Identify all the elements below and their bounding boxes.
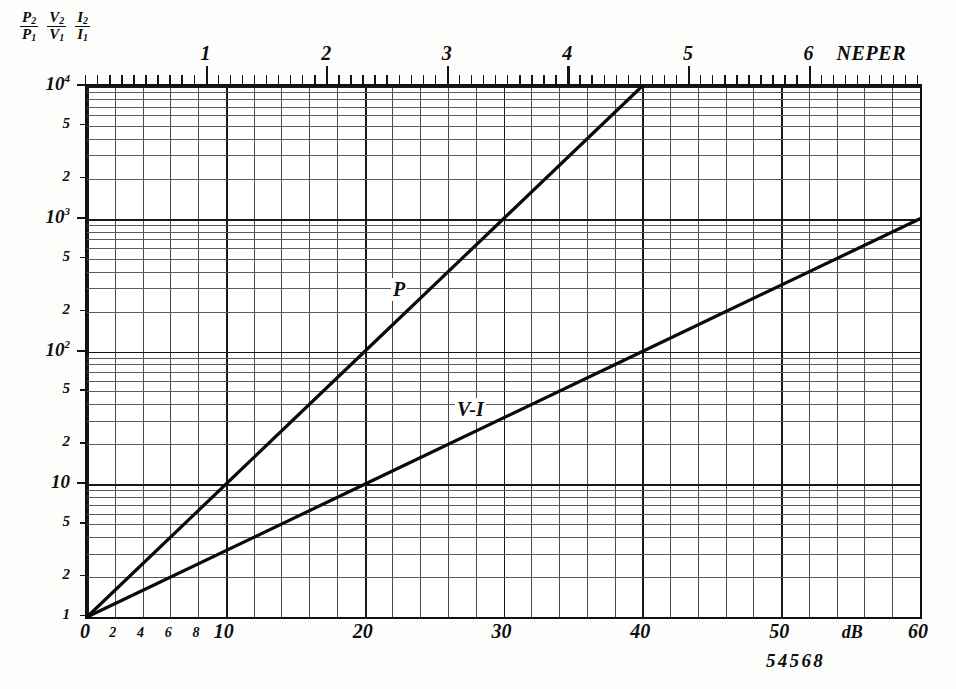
top-axis-tick-minor bbox=[145, 75, 146, 84]
y-axis-tick-label: 103 bbox=[46, 205, 71, 227]
top-axis-tick-minor bbox=[459, 75, 460, 84]
y-axis-tick-label: 2 bbox=[63, 433, 71, 450]
curve-label-vi: V-I bbox=[455, 398, 486, 421]
curve-label-p: P bbox=[391, 278, 407, 301]
top-axis-tick-major bbox=[567, 66, 569, 84]
top-axis-tick-minor bbox=[181, 75, 182, 84]
figure-number: 54568 bbox=[766, 650, 825, 672]
top-axis-tick-major bbox=[206, 66, 208, 84]
top-axis-tick-major bbox=[688, 66, 690, 84]
top-axis-tick-minor bbox=[266, 75, 267, 84]
top-axis-tick-minor bbox=[543, 75, 544, 84]
y-axis-tick-label: 2 bbox=[63, 566, 71, 583]
top-axis-tick-minor bbox=[676, 75, 677, 84]
y-axis-tick bbox=[77, 217, 85, 219]
y-axis-tick-label: 2 bbox=[63, 168, 71, 185]
top-axis-labels: 123456 bbox=[85, 42, 918, 72]
y-axis-tick bbox=[80, 615, 85, 616]
top-axis-tick-minor bbox=[399, 75, 400, 84]
y-axis-tick bbox=[80, 575, 85, 576]
top-axis-tick-minor bbox=[784, 75, 785, 84]
y-axis-tick bbox=[80, 522, 85, 523]
top-axis-tick-minor bbox=[760, 75, 761, 84]
y-axis-tick-label: 1 bbox=[63, 606, 71, 623]
y-axis-tick bbox=[80, 257, 85, 258]
x-axis-tick-label-minor: 2 bbox=[109, 625, 116, 641]
x-axis-unit-label: dB bbox=[842, 622, 863, 643]
top-axis-tick-minor bbox=[917, 75, 918, 84]
top-axis-tick-minor bbox=[869, 75, 870, 84]
top-axis-tick-minor bbox=[796, 75, 797, 84]
power-denominator: P1 bbox=[20, 26, 38, 42]
x-axis-labels: 01020304050602468 bbox=[85, 620, 918, 654]
y-axis-tick bbox=[80, 124, 85, 125]
voltage-denominator: V1 bbox=[47, 26, 66, 42]
top-axis-tick-minor bbox=[507, 75, 508, 84]
top-axis-tick-minor bbox=[314, 75, 315, 84]
current-numerator: I2 bbox=[75, 10, 90, 25]
y-axis-tick-label: 5 bbox=[63, 115, 71, 132]
top-axis-tick-minor bbox=[579, 75, 580, 84]
top-axis-tick-minor bbox=[435, 75, 436, 84]
y-axis-tick bbox=[77, 482, 85, 484]
x-axis-tick-label: 60 bbox=[908, 620, 928, 643]
top-axis-tick-major bbox=[326, 66, 328, 84]
top-axis-tick-minor bbox=[700, 75, 701, 84]
top-axis-tick-label: 2 bbox=[321, 42, 331, 65]
top-axis-tick-minor bbox=[664, 75, 665, 84]
top-axis-tick-minor bbox=[97, 75, 98, 84]
top-axis-tick-minor bbox=[483, 75, 484, 84]
top-axis-tick-minor bbox=[157, 75, 158, 84]
x-axis-tick-label-minor: 6 bbox=[165, 625, 172, 641]
x-axis-tick-label: 20 bbox=[353, 620, 373, 643]
top-axis-tick-minor bbox=[362, 75, 363, 84]
top-axis-tick-minor bbox=[350, 75, 351, 84]
x-axis-tick-label: 30 bbox=[492, 620, 512, 643]
top-axis-tick-minor bbox=[628, 75, 629, 84]
ratio-fraction-voltage: V2 V1 bbox=[47, 10, 66, 43]
top-axis-tick-minor bbox=[652, 75, 653, 84]
top-axis-tick-label: 5 bbox=[683, 42, 693, 65]
top-axis-tick-minor bbox=[386, 75, 387, 84]
y-axis-tick bbox=[80, 442, 85, 443]
top-axis-tick-minor bbox=[905, 75, 906, 84]
x-axis-tick-label-minor: 4 bbox=[137, 625, 144, 641]
y-axis-tick-label: 2 bbox=[63, 301, 71, 318]
x-axis-tick-label: 50 bbox=[769, 620, 789, 643]
top-axis-tick-minor bbox=[640, 75, 641, 84]
ratio-fraction-power: P2 P1 bbox=[20, 10, 38, 43]
top-axis-tick-label: 4 bbox=[562, 42, 572, 65]
top-axis-tick-minor bbox=[531, 75, 532, 84]
y-axis-tick bbox=[80, 389, 85, 390]
top-axis-tick-minor bbox=[772, 75, 773, 84]
top-axis-tick-minor bbox=[736, 75, 737, 84]
top-axis-tick-major bbox=[447, 66, 449, 84]
top-axis-tick-minor bbox=[290, 75, 291, 84]
y-axis-tick-label: 102 bbox=[46, 338, 71, 360]
top-axis-tick-label: 1 bbox=[201, 42, 211, 65]
y-axis-tick bbox=[80, 177, 85, 178]
top-axis-tick-minor bbox=[616, 75, 617, 84]
top-axis-tick-minor bbox=[423, 75, 424, 84]
top-axis-tick-minor bbox=[194, 75, 195, 84]
y-axis-tick-label: 5 bbox=[63, 513, 71, 530]
top-axis-tick-minor bbox=[218, 75, 219, 84]
y-axis-tick bbox=[80, 310, 85, 311]
top-axis-tick-minor bbox=[519, 75, 520, 84]
y-axis-tick-label: 10 bbox=[51, 471, 70, 493]
y-axis-tick bbox=[77, 350, 85, 352]
top-axis-tick-minor bbox=[230, 75, 231, 84]
top-axis-unit-label: NEPER bbox=[837, 42, 907, 65]
top-axis-tick-label: 6 bbox=[804, 42, 814, 65]
y-axis-ratio-header: P2 P1 V2 V1 I2 I1 bbox=[20, 10, 90, 43]
ratio-fraction-current: I2 I1 bbox=[75, 10, 90, 43]
top-axis-tick-minor bbox=[857, 75, 858, 84]
top-axis-tick-minor bbox=[833, 75, 834, 84]
top-axis-tick-minor bbox=[374, 75, 375, 84]
x-axis-tick-label: 0 bbox=[80, 620, 90, 643]
top-axis-tick-minor bbox=[133, 75, 134, 84]
y-axis-labels: 12510251022510325104 bbox=[0, 84, 78, 615]
curve-v-i bbox=[87, 219, 920, 617]
top-axis-tick-minor bbox=[591, 75, 592, 84]
top-axis-tick-minor bbox=[821, 75, 822, 84]
